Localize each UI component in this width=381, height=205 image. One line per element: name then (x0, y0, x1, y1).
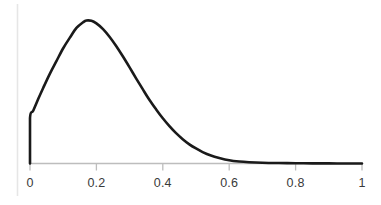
x-tick-label-3: 0.6 (209, 176, 249, 190)
x-tick-label-4: 0.8 (276, 176, 316, 190)
x-tick-label-1: 0.2 (76, 176, 116, 190)
x-tick-label-5: 1 (342, 176, 381, 190)
plot-area (0, 0, 381, 205)
chart-figure: 0 0.2 0.4 0.6 0.8 1 (0, 0, 381, 205)
x-tick-label-2: 0.4 (143, 176, 183, 190)
density-curve (30, 20, 362, 163)
x-tick-label-0: 0 (10, 176, 50, 190)
